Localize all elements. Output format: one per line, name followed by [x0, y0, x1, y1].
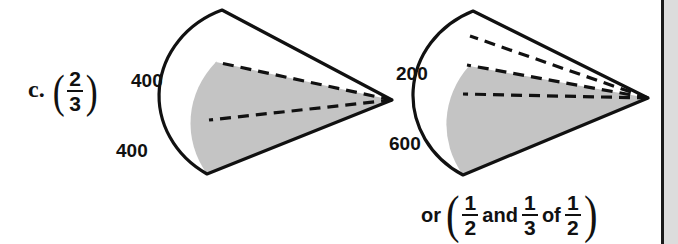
note-close-paren: ) [584, 194, 598, 237]
note-fraction-3: 1 2 [565, 192, 581, 239]
note-fraction-1-numerator: 1 [464, 192, 476, 213]
note-open-paren: ( [446, 194, 460, 237]
note-fraction-3-denominator: 2 [567, 217, 579, 238]
note-prefix: or [421, 204, 441, 227]
note-fraction-2-denominator: 3 [524, 217, 536, 238]
note-preposition: of [542, 204, 561, 227]
alternative-note: or ( 1 2 and 1 3 of 1 2 ) [418, 192, 599, 239]
note-fraction-2-numerator: 1 [524, 192, 536, 213]
page-edge-shade [664, 0, 678, 244]
note-fraction-2: 1 3 [522, 192, 538, 239]
note-fraction-1: 1 2 [462, 192, 478, 239]
note-fraction-3-numerator: 1 [567, 192, 579, 213]
note-fraction-1-denominator: 2 [464, 217, 476, 238]
worksheet-figure: c. ( 2 3 ) 400 400 200 600 [0, 0, 678, 244]
note-conjunction: and [482, 204, 518, 227]
